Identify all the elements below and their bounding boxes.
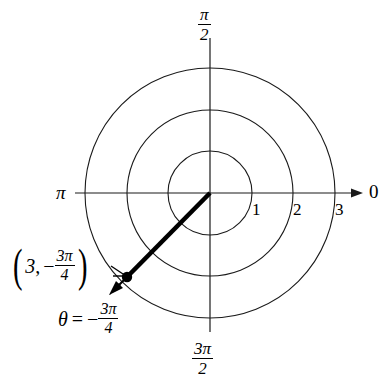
point-label-theta-denominator: 4 <box>55 266 75 283</box>
angle-minus-sign: − <box>87 309 98 329</box>
axis-label-3pi-over-2-numerator: 3π <box>192 340 213 359</box>
axis-label-zero: 0 <box>369 182 379 201</box>
point-label-close-paren: ) <box>78 248 88 284</box>
point-coordinate-label: (3,− 3π 4 ) <box>10 248 90 284</box>
axis-label-3pi-over-2: 3π 2 <box>192 340 213 378</box>
equals-sign: = <box>68 309 87 329</box>
horizontal-axis <box>75 189 363 198</box>
axis-label-pi: π <box>56 183 66 202</box>
point-label-r-value: 3 <box>25 256 35 276</box>
axis-label-pi-over-2-denominator: 2 <box>198 25 211 43</box>
theta-symbol: θ <box>58 309 68 329</box>
point-label-comma: , <box>35 256 43 276</box>
angle-equation-label: θ=− 3π 4 <box>58 301 118 337</box>
point-label-theta-numerator: 3π <box>55 248 75 266</box>
point-label-open-paren: ( <box>13 248 23 284</box>
axis-label-pi-over-2-numerator: π <box>198 6 211 25</box>
axis-label-3pi-over-2-denominator: 2 <box>192 359 213 377</box>
angle-numerator: 3π <box>98 301 118 319</box>
radial-tick-label-1: 1 <box>252 201 261 218</box>
terminal-ray <box>109 193 210 295</box>
horizontal-axis-arrowhead <box>351 189 363 198</box>
axis-label-pi-over-2: π 2 <box>198 6 211 44</box>
angle-denominator: 4 <box>98 319 118 336</box>
radial-tick-label-3: 3 <box>335 201 344 218</box>
radial-tick-label-2: 2 <box>293 201 302 218</box>
plotted-point-marker <box>122 272 132 282</box>
point-label-minus-sign: − <box>43 256 54 276</box>
